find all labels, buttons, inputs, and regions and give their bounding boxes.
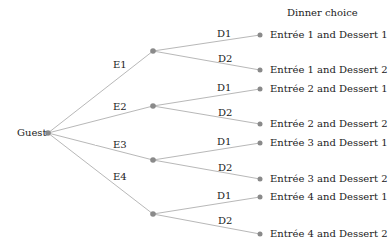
outcome-node-e4-d1 xyxy=(258,195,263,200)
outcome-label: Entrée 3 and Dessert 2 xyxy=(270,173,388,185)
outcome-node-e1-d2 xyxy=(258,68,263,73)
outcome-label: Entrée 2 and Dessert 1 xyxy=(270,83,388,95)
entree-label-e3: E3 xyxy=(113,139,127,151)
entree-node-e2 xyxy=(150,103,156,109)
dessert-label-e1-d1: D1 xyxy=(217,28,231,40)
outcome-label: Entrée 4 and Dessert 1 xyxy=(270,191,388,203)
entree-label-e1: E1 xyxy=(113,59,127,71)
outcome-label: Entrée 4 and Dessert 2 xyxy=(270,228,388,240)
edge-guest-to-e4 xyxy=(48,133,153,214)
outcome-node-e4-d2 xyxy=(258,232,263,237)
edge-guest-to-e3 xyxy=(48,133,153,160)
guest-label: Guest xyxy=(17,127,47,139)
edge-e2-d2 xyxy=(153,106,260,124)
outcome-node-e3-d1 xyxy=(258,141,263,146)
dessert-label-e4-d1: D1 xyxy=(217,190,231,202)
entree-label-e2: E2 xyxy=(113,101,127,113)
edge-guest-to-e1 xyxy=(48,51,153,133)
entree-node-e4 xyxy=(150,211,156,217)
dessert-label-e4-d2: D2 xyxy=(218,215,232,227)
edge-e4-d2 xyxy=(153,214,260,234)
outcome-label: Entrée 1 and Dessert 1 xyxy=(270,29,388,41)
dessert-label-e3-d1: D1 xyxy=(217,136,231,148)
entree-label-e4: E4 xyxy=(113,171,127,183)
entree-node-e3 xyxy=(150,157,156,163)
outcome-node-e3-d2 xyxy=(258,177,263,182)
dessert-label-e1-d2: D2 xyxy=(218,53,232,65)
edge-e3-d1 xyxy=(153,143,260,160)
outcome-label: Entrée 2 and Dessert 2 xyxy=(270,118,388,130)
dessert-label-e3-d2: D2 xyxy=(218,162,232,174)
entree-node-e1 xyxy=(150,48,156,54)
edge-e1-d2 xyxy=(153,51,260,70)
dinner-choice-title: Dinner choice xyxy=(287,7,358,19)
edge-e3-d2 xyxy=(153,160,260,179)
outcome-node-e2-d1 xyxy=(258,87,263,92)
outcome-node-e2-d2 xyxy=(258,122,263,127)
edge-e2-d1 xyxy=(153,89,260,106)
outcome-label: Entrée 1 and Dessert 2 xyxy=(270,64,388,76)
outcome-label: Entrée 3 and Dessert 1 xyxy=(270,137,388,149)
dessert-label-e2-d1: D1 xyxy=(217,82,231,94)
outcome-node-e1-d1 xyxy=(258,33,263,38)
edge-guest-to-e2 xyxy=(48,106,153,133)
dessert-label-e2-d2: D2 xyxy=(218,107,232,119)
edge-e1-d1 xyxy=(153,35,260,51)
edge-gap xyxy=(95,141,101,145)
edge-e4-d1 xyxy=(153,197,260,214)
